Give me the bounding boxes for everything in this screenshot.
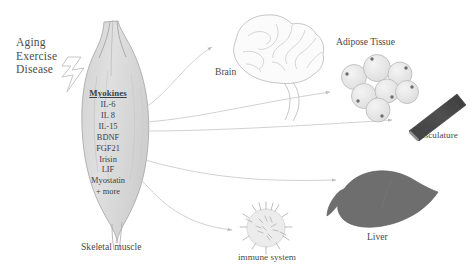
myokine-item: IL-15 (77, 122, 139, 133)
immune-system-label: immune system (238, 252, 296, 263)
myokine-item: IL-6 (77, 100, 139, 111)
liver-icon (327, 171, 438, 227)
adipose-tissue-label: Adipose Tissue (336, 36, 395, 47)
stimulus-aging: Aging (16, 36, 57, 50)
brain-icon (234, 15, 324, 121)
immune-cell-icon (240, 202, 292, 254)
myokine-item: + more (77, 187, 139, 198)
myokine-item: Myostatin (77, 176, 139, 187)
myokine-list: Myokines IL-6 IL 8 IL-15 BDNF FGF21 Iris… (77, 88, 139, 198)
adipose-tissue-icon (342, 55, 419, 123)
brain-label: Brain (215, 66, 236, 77)
arrow-to-vasculature (147, 120, 392, 131)
skeletal-muscle-label: Skeletal muscle (81, 241, 141, 252)
myokine-item: BDNF (77, 133, 139, 144)
arrow-to-immune (138, 176, 232, 230)
arrow-to-adipose (146, 92, 330, 122)
stimuli-label-group: Aging Exercise Disease (16, 36, 57, 77)
myokine-crosstalk-diagram: Aging Exercise Disease Myokines IL-6 IL … (0, 0, 475, 274)
myokine-item: Irisin (77, 155, 139, 166)
arrow-to-brain (142, 47, 212, 110)
myokine-item: FGF21 (77, 144, 139, 155)
lightning-bolt-arrow-icon (62, 57, 84, 92)
myokine-item: LIF (77, 165, 139, 176)
myokine-item: IL 8 (77, 111, 139, 122)
stimulus-exercise: Exercise (16, 50, 57, 64)
arrow-to-liver (145, 160, 336, 180)
diagram-graphics (0, 0, 475, 274)
stimulus-disease: Disease (16, 63, 57, 77)
liver-label: Liver (367, 231, 388, 242)
vasculature-label: Vasculature (415, 130, 458, 141)
myokine-list-title: Myokines (77, 88, 139, 99)
